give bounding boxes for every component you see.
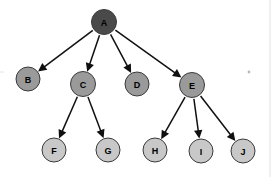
edge-a-to-b bbox=[38, 30, 93, 71]
node-b[interactable]: B bbox=[16, 67, 40, 91]
node-e[interactable]: E bbox=[180, 73, 205, 98]
edge-line bbox=[44, 30, 93, 67]
node-label-f: F bbox=[51, 146, 57, 156]
edge-a-to-e bbox=[115, 30, 181, 77]
node-label-b: B bbox=[25, 75, 32, 85]
node-label-a: A bbox=[101, 18, 108, 28]
node-c[interactable]: C bbox=[71, 72, 96, 97]
node-a[interactable]: A bbox=[92, 10, 117, 35]
edge-c-to-g bbox=[88, 97, 105, 138]
edge-line bbox=[111, 34, 128, 66]
node-j[interactable]: J bbox=[231, 139, 255, 163]
node-f[interactable]: F bbox=[42, 138, 66, 162]
edge-line bbox=[115, 30, 175, 73]
edge-line bbox=[194, 99, 198, 132]
node-label-d: D bbox=[134, 80, 141, 90]
edge-line bbox=[88, 97, 101, 132]
edge-c-to-f bbox=[59, 97, 78, 139]
arrowhead-icon bbox=[38, 63, 47, 71]
edge-e-to-h bbox=[161, 97, 185, 139]
node-label-e: E bbox=[189, 81, 195, 91]
edge-line bbox=[62, 97, 78, 132]
node-h[interactable]: H bbox=[143, 138, 167, 162]
edge-a-to-c bbox=[86, 35, 100, 71]
edge-line bbox=[201, 96, 232, 135]
node-g[interactable]: G bbox=[96, 138, 120, 162]
node-label-j: J bbox=[240, 147, 245, 157]
speck bbox=[248, 71, 251, 74]
arrowhead-icon bbox=[86, 62, 94, 71]
node-layer: ABCDEFGHIJ bbox=[16, 10, 255, 164]
node-label-i: I bbox=[200, 147, 203, 157]
tree-diagram: ABCDEFGHIJ bbox=[0, 0, 276, 177]
node-label-c: C bbox=[80, 80, 87, 90]
edge-line bbox=[89, 35, 99, 65]
diagram-canvas: ABCDEFGHIJ bbox=[0, 0, 276, 177]
edge-line bbox=[165, 97, 185, 133]
arrowhead-icon bbox=[172, 69, 181, 77]
edge-e-to-i bbox=[194, 99, 202, 139]
edge-e-to-j bbox=[201, 96, 236, 141]
arrowhead-icon bbox=[227, 132, 236, 141]
edge-a-to-d bbox=[111, 34, 132, 73]
node-d[interactable]: D bbox=[125, 72, 149, 96]
node-i[interactable]: I bbox=[189, 139, 213, 163]
arrowhead-icon bbox=[194, 130, 202, 139]
node-label-h: H bbox=[152, 146, 159, 156]
node-label-g: G bbox=[104, 146, 111, 156]
